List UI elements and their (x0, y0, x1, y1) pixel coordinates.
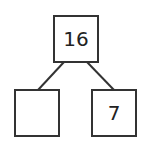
part-box-left[interactable] (14, 89, 60, 137)
part-right-value: 7 (108, 101, 121, 125)
connector-right (87, 62, 114, 90)
whole-value: 16 (63, 27, 88, 51)
whole-box: 16 (53, 15, 99, 63)
connector-left (38, 62, 64, 90)
part-box-right: 7 (91, 89, 137, 137)
